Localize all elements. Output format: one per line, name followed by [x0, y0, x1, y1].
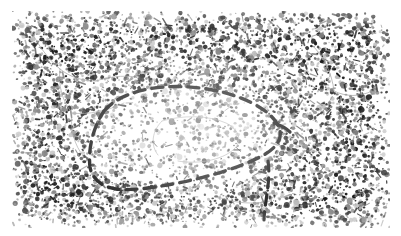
micrograph-canvas — [12, 11, 390, 228]
cropped-header-text-strip: a p p e a r a n c e o f t h e l e s i o … — [0, 0, 401, 11]
figure-root: a p p e a r a n c e o f t h e l e s i o … — [0, 0, 401, 236]
histology-micrograph-image — [12, 11, 390, 228]
